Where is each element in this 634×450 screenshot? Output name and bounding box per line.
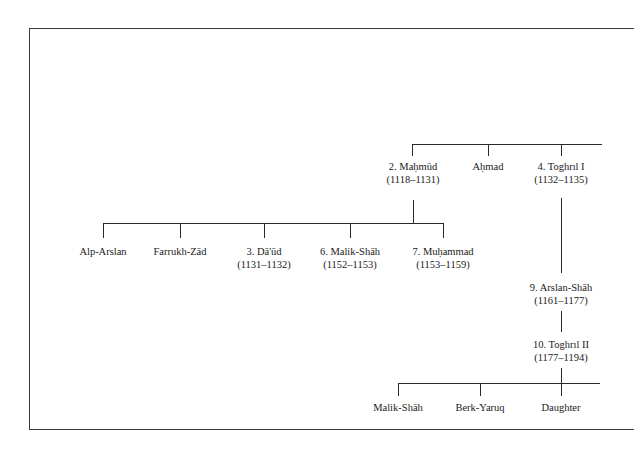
node-name: 7. Muḥammad [412,245,473,258]
toghril2-descent-line [561,368,562,396]
node-berk-yaruq: Berk-Yaruq [455,401,504,414]
malik-shah-stem [398,383,399,396]
node-farrukh-zad: Farrukh-Zād [153,245,206,258]
node-dates: (1152–1153) [320,258,380,271]
node-dates: (1118–1131) [386,173,439,186]
node-mahmud: 2. Maḥmūd (1118–1131) [386,160,439,186]
node-name: 2. Maḥmūd [386,160,439,173]
node-malik-shah6: 6. Malik-Shāh (1152–1153) [320,245,380,271]
node-dates: (1177–1194) [533,351,589,364]
node-name: Aḥmad [473,160,504,173]
berk-yaruq-stem [480,383,481,396]
node-name: 3. Dā'ūd [237,245,290,258]
toghril2-children-line [398,383,600,384]
node-name: Malik-Shāh [373,401,423,414]
gen1-sibling-line [412,144,602,145]
ahmad-stem [488,144,489,156]
node-alp-arslan: Alp-Arslan [79,245,126,258]
node-muhammad7: 7. Muḥammad (1153–1159) [412,245,473,271]
node-name: 9. Arslan-Shāh [530,281,592,294]
farrukh-zad-stem [180,223,181,238]
node-malik-shah: Malik-Shāh [373,401,423,414]
node-dates: (1153–1159) [412,258,473,271]
node-name: 6. Malik-Shāh [320,245,380,258]
node-name: Farrukh-Zād [153,245,206,258]
node-name: Alp-Arslan [79,245,126,258]
node-daughter: Daughter [541,401,580,414]
node-dates: (1132–1135) [534,173,587,186]
toghril1-descent-line [561,198,562,273]
frame-left-border [29,28,30,430]
node-toghril1: 4. Toghrıl I (1132–1135) [534,160,587,186]
mahmud-descent-line [413,200,414,223]
alp-arslan-stem [103,223,104,238]
node-ahmad: Aḥmad [473,160,504,173]
mahmud-children-line [103,223,443,224]
toghril1-stem [561,144,562,156]
node-dates: (1161–1177) [530,294,592,307]
node-name: Daughter [541,401,580,414]
arslan-shah9-descent-line [561,311,562,332]
mahmud-stem [412,144,413,156]
node-toghril2: 10. Toghrıl II (1177–1194) [533,338,589,364]
daud-stem [264,223,265,238]
frame-bottom-border [30,429,634,430]
node-arslan-shah9: 9. Arslan-Shāh (1161–1177) [530,281,592,307]
node-daud: 3. Dā'ūd (1131–1132) [237,245,290,271]
muhammad7-stem [443,223,444,238]
node-name: 4. Toghrıl I [534,160,587,173]
frame-top-border [30,28,634,29]
malik-shah6-stem [350,223,351,238]
node-name: 10. Toghrıl II [533,338,589,351]
node-name: Berk-Yaruq [455,401,504,414]
node-dates: (1131–1132) [237,258,290,271]
